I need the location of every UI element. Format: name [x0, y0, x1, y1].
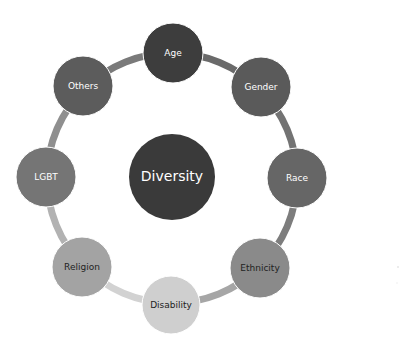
center-node: Diversity — [129, 134, 215, 220]
node-ethnicity: Ethnicity — [230, 238, 290, 298]
node-label: Age — [164, 48, 182, 58]
center-label: Diversity — [141, 168, 203, 184]
node-others: Others — [53, 56, 113, 116]
node-age: Age — [143, 23, 203, 83]
node-label: Others — [68, 81, 99, 91]
diversity-cycle-diagram: AgeGenderRaceEthnicityDisabilityReligion… — [0, 0, 411, 351]
node-label: LGBT — [34, 172, 58, 182]
node-race: Race — [267, 148, 327, 208]
node-disability: Disability — [142, 276, 200, 334]
node-label: Gender — [244, 82, 277, 92]
node-label: Religion — [64, 262, 100, 272]
node-label: Race — [286, 173, 309, 183]
node-label: Disability — [150, 300, 192, 310]
node-label: Ethnicity — [240, 263, 280, 273]
node-religion: Religion — [52, 237, 112, 297]
scan-specks — [396, 266, 399, 284]
node-lgbt: LGBT — [16, 147, 76, 207]
node-gender: Gender — [231, 57, 291, 117]
